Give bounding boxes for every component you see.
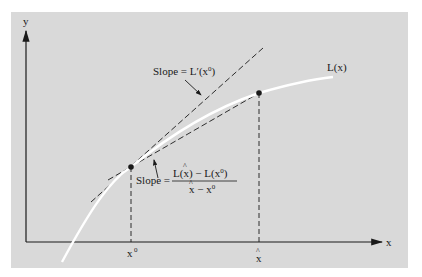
svg-text:Slope =: Slope =	[136, 174, 170, 186]
tangent-label-pointer	[185, 80, 201, 95]
diagram-canvas: y x L(x) x 0 ^ x Slope = L′(x0) Slope = …	[0, 0, 422, 277]
x0-point	[128, 164, 134, 170]
x0-tick-label: x 0	[127, 246, 138, 259]
svg-text:L(x) − L(x0): L(x) − L(x0)	[173, 167, 228, 180]
xhat-tick-label: ^ x	[256, 247, 262, 264]
svg-text:x: x	[256, 252, 262, 264]
secant-slope-label: Slope = L(x) − L(x0) ^ x − x0 ^	[136, 162, 237, 195]
svg-text:^: ^	[183, 162, 187, 171]
svg-text:0: 0	[134, 246, 138, 254]
svg-text:Slope = L′(x0): Slope = L′(x0)	[153, 65, 216, 78]
tangent-slope-label: Slope = L′(x0)	[153, 65, 216, 78]
svg-text:x − x0: x − x0	[189, 183, 216, 195]
svg-text:^: ^	[189, 179, 193, 188]
curve-label: L(x)	[327, 61, 347, 74]
y-axis-label: y	[23, 15, 29, 27]
xhat-point	[256, 90, 262, 96]
x-axis-label: x	[386, 236, 392, 248]
svg-text:x: x	[127, 247, 133, 259]
